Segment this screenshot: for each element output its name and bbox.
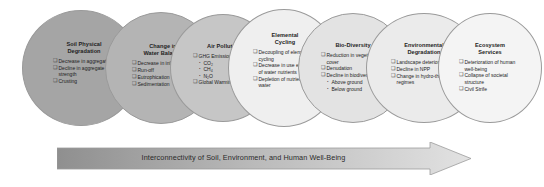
list-item: ❑Collapse of societal structure <box>459 72 521 85</box>
stage-title-ecosystem-services: EcosystemServices <box>451 42 529 57</box>
interconnectivity-diagram: Soil PhysicalDegradation❑Decrease in agg… <box>0 0 544 187</box>
stage-ellipse-ecosystem-services[interactable]: EcosystemServices❑Deterioration of human… <box>438 13 542 123</box>
arrow-label: Interconnectivity of Soil, Environment, … <box>57 153 430 163</box>
list-item: ❑Civil Strife <box>459 86 521 93</box>
list-item: ❑Deterioration of human well-being <box>459 59 521 72</box>
bullet-text: Deterioration of human well-being <box>465 59 522 72</box>
bullet-row: ❑Collapse of societal structure <box>459 72 521 85</box>
interconnectivity-arrow: Interconnectivity of Soil, Environment, … <box>57 142 471 175</box>
stage-title-line1: Ecosystem <box>451 42 529 49</box>
stage-title-line2: Services <box>451 49 529 56</box>
stage-item-list-ecosystem-services: ❑Deterioration of human well-being❑Colla… <box>459 59 521 93</box>
bullet-text: Civil Strife <box>465 86 522 93</box>
bullet-row: ❑Civil Strife <box>459 86 521 93</box>
bullet-text: Collapse of societal structure <box>465 72 522 85</box>
bullet-row: ❑Deterioration of human well-being <box>459 59 521 72</box>
